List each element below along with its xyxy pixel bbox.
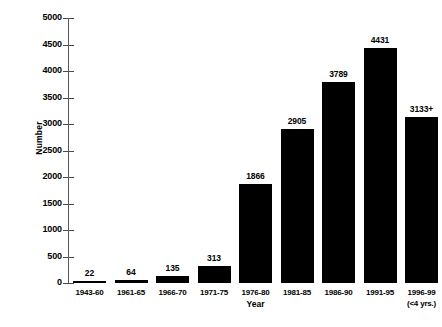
bar-group: 64 — [115, 18, 148, 283]
bar-group: 22 — [73, 18, 106, 283]
bar — [239, 184, 272, 283]
x-axis-category-text: 1976-80 — [242, 288, 270, 297]
x-axis-category-text: 1996-99 — [408, 288, 436, 297]
bar-value-label: 2905 — [273, 116, 322, 126]
x-axis-title: Year — [230, 299, 282, 309]
y-axis-tick-label: 4000 — [42, 65, 62, 75]
x-axis-category-sublabel: (<4 yrs.) — [396, 298, 442, 309]
x-axis-category-text: 1991-95 — [366, 288, 394, 297]
x-axis-category-text: 1943-60 — [76, 288, 104, 297]
bar — [156, 276, 189, 283]
bar-value-label: 313 — [190, 253, 239, 263]
bar-value-label: 3789 — [314, 69, 363, 79]
bar-group: 313 — [198, 18, 231, 283]
bar-group: 3133+ — [405, 18, 438, 283]
bar-value-label: 4431 — [356, 35, 405, 45]
bar — [115, 280, 148, 283]
bar — [405, 117, 438, 283]
x-axis-category-text: 1981-85 — [283, 288, 311, 297]
bar — [198, 266, 231, 283]
y-axis-tick-label: 3500 — [42, 92, 62, 102]
y-axis-tick-label: 2000 — [42, 171, 62, 181]
bar-group: 2905 — [281, 18, 314, 283]
bar-group: 4431 — [364, 18, 397, 283]
x-axis-category-text: 1971-75 — [200, 288, 228, 297]
bar-value-label: 1866 — [231, 171, 280, 181]
y-axis-tick-label: 0 — [57, 277, 62, 287]
bar-group: 3789 — [322, 18, 355, 283]
bar-value-label: 3133+ — [397, 104, 442, 114]
bar-value-label: 135 — [148, 263, 197, 273]
bar — [281, 129, 314, 283]
bar — [73, 281, 106, 283]
x-axis-category-text: 1961-65 — [117, 288, 145, 297]
y-axis-tick-label: 3000 — [42, 118, 62, 128]
x-axis-category-label: 1996-99(<4 yrs.) — [396, 287, 442, 309]
bar-group: 1866 — [239, 18, 272, 283]
y-axis-tick-label: 2500 — [42, 145, 62, 155]
bar — [322, 82, 355, 283]
y-axis-tick-label: 500 — [47, 251, 62, 261]
x-axis-category-text: 1966-70 — [159, 288, 187, 297]
bar-group: 135 — [156, 18, 189, 283]
bar — [364, 48, 397, 283]
plot-area: 226413531318662905378944313133+ — [69, 18, 417, 283]
y-axis-tick-label: 1000 — [42, 224, 62, 234]
y-axis-tick-label: 5000 — [42, 12, 62, 22]
y-axis-title: Number — [34, 98, 44, 178]
x-axis-category-text: 1986-90 — [325, 288, 353, 297]
y-axis-tick-label: 4500 — [42, 39, 62, 49]
y-axis-tick-label: 1500 — [42, 198, 62, 208]
y-axis-tick-mark — [63, 283, 74, 284]
